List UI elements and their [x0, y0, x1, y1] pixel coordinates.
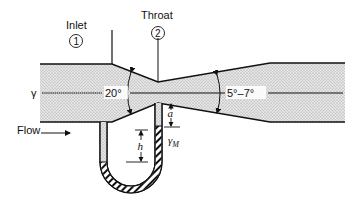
manometer-gamma-subscript: M — [171, 140, 180, 149]
manometer-gamma-label: γM — [168, 134, 180, 149]
converging-angle-label: 20° — [105, 87, 122, 99]
inlet-label: Inlet — [66, 19, 87, 31]
throat-number: 2 — [155, 28, 161, 39]
flow-label: Flow — [17, 124, 40, 136]
manometer-left-fluid — [101, 122, 107, 162]
diverging-angle-label: 5°–7° — [227, 87, 254, 99]
throat-label: Throat — [141, 9, 173, 21]
dim-a-label: a — [168, 107, 174, 119]
fluid-gamma-label: γ — [31, 87, 37, 99]
manometer-right-fluid — [156, 103, 162, 126]
dim-h-label: h — [138, 140, 144, 152]
venturi-diagram: Inlet 1 Throat 2 γ 20° 5°–7° Flow a h γM — [0, 0, 355, 205]
inlet-number: 1 — [74, 36, 80, 47]
manometer-liquid — [101, 126, 162, 192]
